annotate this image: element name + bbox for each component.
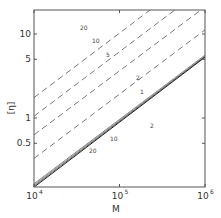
series-line-3 xyxy=(34,30,205,159)
curve-label-0: 20 xyxy=(80,24,88,31)
curve-labels: 201052121020 xyxy=(80,24,154,154)
curve-label-5: 2 xyxy=(150,122,154,129)
y-axis-label: [η] xyxy=(6,102,16,115)
x-tick-exp-1: 5 xyxy=(125,188,129,195)
curve-label-2: 5 xyxy=(106,51,110,58)
x-tick-label-0: 10 xyxy=(26,191,38,201)
plot-frame xyxy=(34,10,205,187)
y-tick-label-0: 10 xyxy=(20,29,32,39)
series-line-4 xyxy=(34,55,205,184)
curve-label-4: 1 xyxy=(140,88,144,95)
series-line-2 xyxy=(34,7,205,135)
series-line-6 xyxy=(34,56,205,186)
series-line-7 xyxy=(34,57,205,187)
y-axis-ticks: 10510.5 xyxy=(17,29,205,148)
curve-label-3: 2 xyxy=(136,74,140,81)
x-tick-exp-2: 6 xyxy=(210,188,214,195)
x-axis-ticks: 104105106 xyxy=(26,10,214,201)
series-line-5 xyxy=(34,56,205,185)
y-tick-label-2: 1 xyxy=(25,113,31,123)
x-axis-label: M xyxy=(112,204,120,214)
series-line-1 xyxy=(34,0,205,116)
plot-lines xyxy=(34,0,205,187)
y-tick-label-1: 5 xyxy=(25,54,31,64)
curve-label-6: 10 xyxy=(110,135,118,142)
y-tick-label-3: 0.5 xyxy=(17,138,31,148)
x-tick-exp-0: 4 xyxy=(39,188,43,195)
x-tick-label-2: 10 xyxy=(197,191,209,201)
x-tick-label-1: 10 xyxy=(112,191,124,201)
curve-label-1: 10 xyxy=(92,37,100,44)
curve-label-7: 20 xyxy=(89,147,97,154)
chart: 104105106 10510.5 201052121020 M [η] xyxy=(0,0,221,218)
